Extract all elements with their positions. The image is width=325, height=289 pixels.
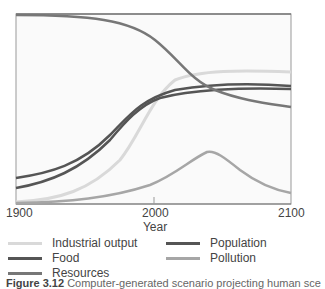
tick-label-2100: 2100 (278, 206, 305, 220)
tick-label-1900: 1900 (6, 206, 33, 220)
legend: Industrial output Population Food Pollut… (0, 236, 310, 276)
legend-item-population: Population (166, 236, 267, 250)
line-chart (0, 0, 310, 215)
figure-caption: Figure 3.12 Computer-generated scenario … (6, 277, 325, 289)
legend-swatch (166, 242, 200, 245)
legend-label: Food (52, 251, 79, 265)
legend-swatch (166, 257, 200, 260)
caption-label: Figure 3.12 (6, 277, 64, 289)
legend-swatch (8, 242, 42, 245)
tick-label-2000: 2000 (142, 206, 169, 220)
x-axis-label: Year (0, 220, 310, 234)
legend-label: Industrial output (52, 236, 137, 250)
legend-swatch (8, 257, 42, 260)
legend-item-pollution: Pollution (166, 251, 256, 265)
caption-text: Computer-generated scenario projecting h… (67, 277, 321, 289)
legend-item-food: Food (8, 251, 79, 265)
legend-swatch (8, 272, 42, 275)
legend-label: Pollution (210, 251, 256, 265)
legend-item-industrial-output: Industrial output (8, 236, 137, 250)
legend-label: Population (210, 236, 267, 250)
